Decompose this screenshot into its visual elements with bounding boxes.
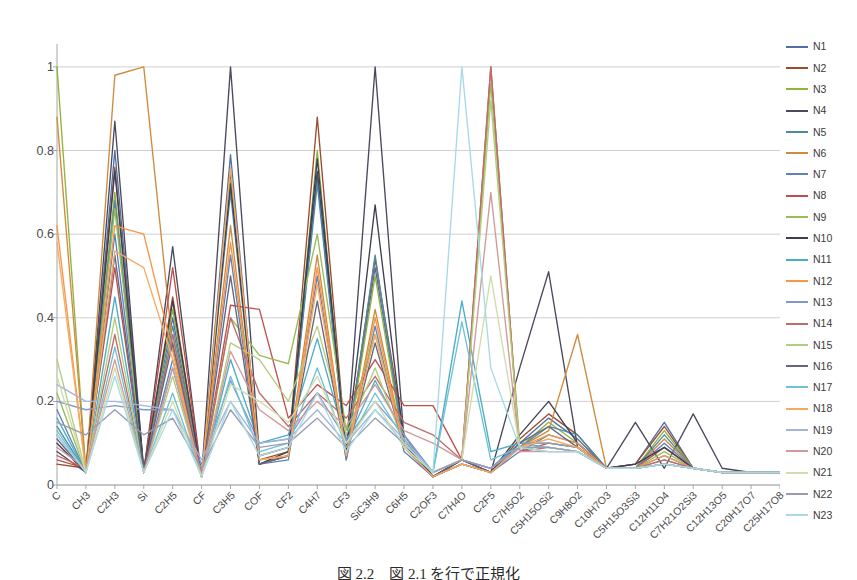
legend-color-swatch xyxy=(786,216,808,218)
legend-item-label: N1 xyxy=(813,41,826,52)
y-axis-tick-label: 0.2 xyxy=(20,395,54,408)
legend-color-swatch xyxy=(786,110,808,112)
legend-item-label: N6 xyxy=(813,148,826,159)
legend-item-label: N12 xyxy=(813,276,832,287)
y-axis-tick-label: 0.8 xyxy=(20,144,54,157)
legend-item-label: N2 xyxy=(813,63,826,74)
legend-item-n15[interactable]: N15 xyxy=(786,334,854,355)
legend-item-label: N13 xyxy=(813,297,832,308)
line-chart-svg xyxy=(10,30,780,550)
legend-item-n19[interactable]: N19 xyxy=(786,419,854,440)
legend-item-label: N14 xyxy=(813,318,832,329)
legend-item-n21[interactable]: N21 xyxy=(786,462,854,483)
legend-color-swatch xyxy=(786,429,808,431)
legend-color-swatch xyxy=(786,408,808,410)
legend-item-label: N19 xyxy=(813,425,832,436)
legend-item-n9[interactable]: N9 xyxy=(786,206,854,227)
legend-item-n17[interactable]: N17 xyxy=(786,377,854,398)
legend-color-swatch xyxy=(786,386,808,388)
legend-color-swatch xyxy=(786,365,808,367)
legend-item-n11[interactable]: N11 xyxy=(786,249,854,270)
legend-color-swatch xyxy=(786,514,808,516)
legend-item-n2[interactable]: N2 xyxy=(786,57,854,78)
y-axis-tick-label: 1 xyxy=(20,61,54,74)
figure-container: 00.20.40.60.81 CCH3C2H3SiC2H5CFC3H5COFCF… xyxy=(0,0,857,580)
legend-item-n6[interactable]: N6 xyxy=(786,142,854,163)
series-line-n6 xyxy=(57,67,780,477)
legend-item-label: N7 xyxy=(813,169,826,180)
legend-color-swatch xyxy=(786,131,808,133)
legend-item-label: N20 xyxy=(813,446,832,457)
legend-color-swatch xyxy=(786,259,808,261)
legend-item-n7[interactable]: N7 xyxy=(786,164,854,185)
chart-plot-container: 00.20.40.60.81 CCH3C2H3SiC2H5CFC3H5COFCF… xyxy=(10,30,780,550)
legend-item-label: N8 xyxy=(813,190,826,201)
legend-item-n13[interactable]: N13 xyxy=(786,292,854,313)
legend-color-swatch xyxy=(786,152,808,154)
legend-item-label: N23 xyxy=(813,510,832,521)
legend-item-n18[interactable]: N18 xyxy=(786,398,854,419)
y-axis-tick-labels: 00.20.40.60.81 xyxy=(10,30,54,550)
legend-item-n12[interactable]: N12 xyxy=(786,270,854,291)
y-axis-tick-label: 0.4 xyxy=(20,312,54,325)
legend-item-label: N5 xyxy=(813,127,826,138)
legend-item-label: N10 xyxy=(813,233,832,244)
legend-item-label: N22 xyxy=(813,489,832,500)
legend-item-label: N15 xyxy=(813,340,832,351)
legend-item-n22[interactable]: N22 xyxy=(786,483,854,504)
legend-item-label: N9 xyxy=(813,212,826,223)
legend-item-n20[interactable]: N20 xyxy=(786,441,854,462)
legend-color-swatch xyxy=(786,237,808,239)
legend-color-swatch xyxy=(786,67,808,69)
legend-item-n16[interactable]: N16 xyxy=(786,355,854,376)
legend-item-label: N18 xyxy=(813,403,832,414)
legend-item-n3[interactable]: N3 xyxy=(786,79,854,100)
legend-color-swatch xyxy=(786,323,808,325)
legend-item-label: N16 xyxy=(813,361,832,372)
legend-item-n5[interactable]: N5 xyxy=(786,121,854,142)
legend-item-label: N11 xyxy=(813,254,831,265)
legend-color-swatch xyxy=(786,173,808,175)
legend-color-swatch xyxy=(786,88,808,90)
legend-color-swatch xyxy=(786,450,808,452)
legend-item-n8[interactable]: N8 xyxy=(786,185,854,206)
legend-item-n14[interactable]: N14 xyxy=(786,313,854,334)
legend-item-n23[interactable]: N23 xyxy=(786,505,854,526)
y-axis-tick-label: 0 xyxy=(20,479,54,492)
legend-color-swatch xyxy=(786,472,808,474)
series-line-n1 xyxy=(57,151,780,477)
legend-color-swatch xyxy=(786,280,808,282)
legend-color-swatch xyxy=(786,493,808,495)
legend-item-n1[interactable]: N1 xyxy=(786,36,854,57)
legend-item-n4[interactable]: N4 xyxy=(786,100,854,121)
legend-color-swatch xyxy=(786,344,808,346)
legend-item-label: N17 xyxy=(813,382,832,393)
legend-color-swatch xyxy=(786,46,808,48)
y-axis-tick-label: 0.6 xyxy=(20,228,54,241)
legend-item-label: N3 xyxy=(813,84,826,95)
legend-item-label: N21 xyxy=(813,467,832,478)
figure-caption: 図 2.2 図 2.1 を行で正規化 xyxy=(0,562,857,580)
legend-item-n10[interactable]: N10 xyxy=(786,228,854,249)
legend-color-swatch xyxy=(786,195,808,197)
legend-item-label: N4 xyxy=(813,105,826,116)
legend-color-swatch xyxy=(786,301,808,303)
chart-legend: N1N2N3N4N5N6N7N8N9N10N11N12N13N14N15N16N… xyxy=(786,36,854,526)
